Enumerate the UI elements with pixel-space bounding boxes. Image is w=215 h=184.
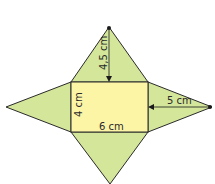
base-width-label: 6 cm <box>99 121 124 132</box>
top-triangle-face <box>71 27 148 82</box>
bottom-triangle-face <box>71 132 148 184</box>
top-height-label: 4,5 cm <box>98 36 109 70</box>
right-height-label: 5 cm <box>167 95 192 106</box>
base-height-label: 4 cm <box>73 92 84 117</box>
pyramid-net-diagram: 4,5 cm 5 cm 6 cm 4 cm <box>0 0 215 184</box>
left-triangle-face <box>6 82 71 132</box>
